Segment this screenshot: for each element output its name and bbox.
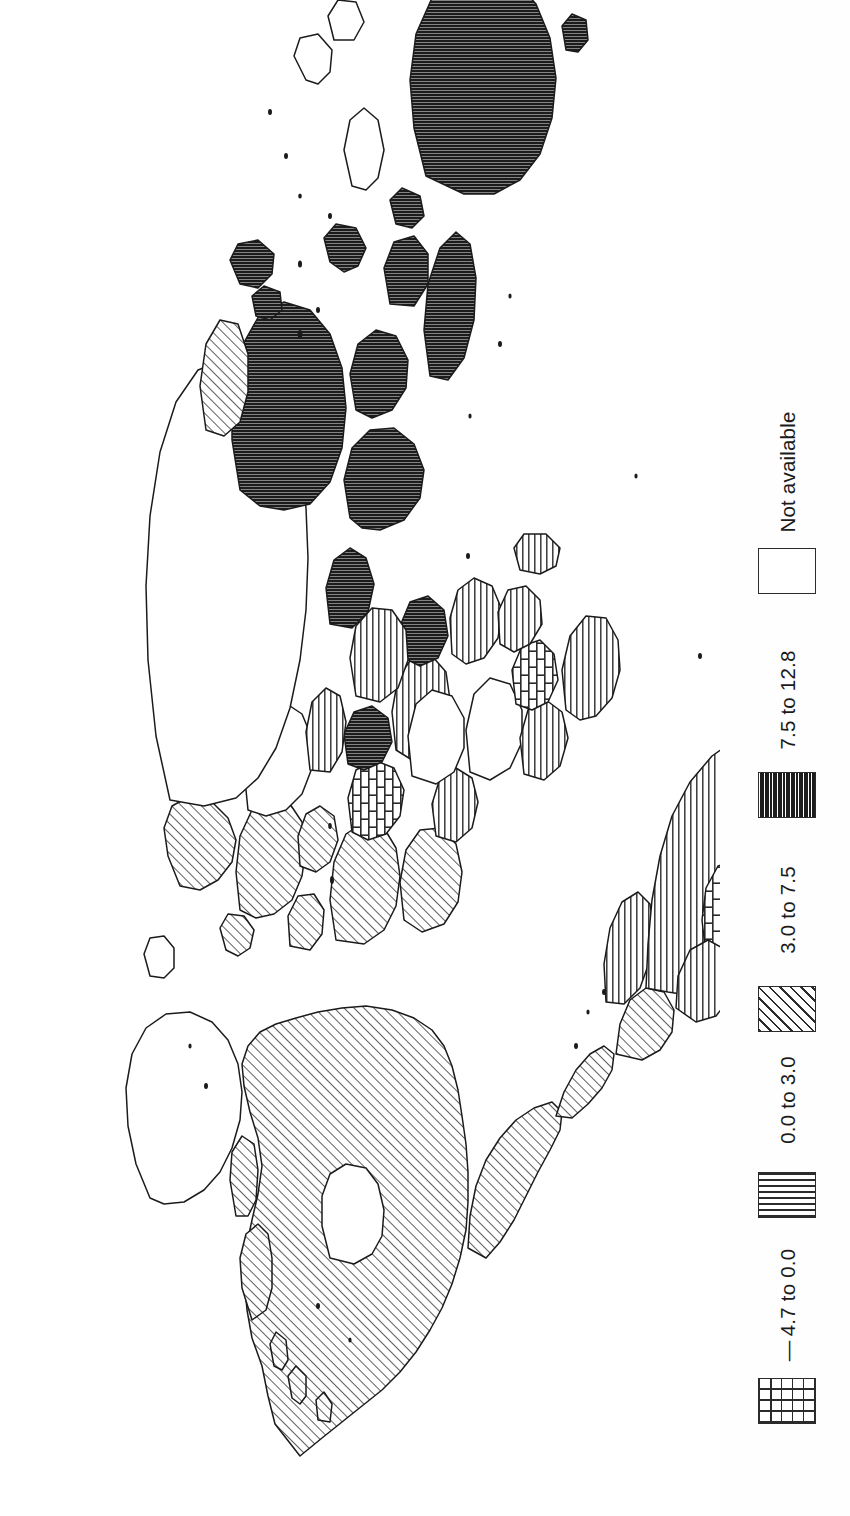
map-svg [0, 0, 720, 1516]
region-png [344, 108, 384, 190]
map-legend: — 4.7 to 0.0 0.0 to 3.0 3.0 to 7.5 7.5 t… [725, 0, 850, 1516]
legend-label-4: Not available [776, 411, 800, 532]
legend-swatch-not-available [758, 548, 816, 594]
region-hudson-bay [322, 1164, 384, 1264]
legend-entry-4: Not available [725, 0, 850, 1516]
figure-root: — 4.7 to 0.0 0.0 to 3.0 3.0 to 7.5 7.5 t… [0, 0, 850, 1516]
region-china [232, 302, 346, 510]
region-baffin [230, 1136, 258, 1216]
region-iceland [144, 936, 174, 978]
world-map [0, 0, 720, 1516]
region-central-africa [408, 690, 464, 784]
